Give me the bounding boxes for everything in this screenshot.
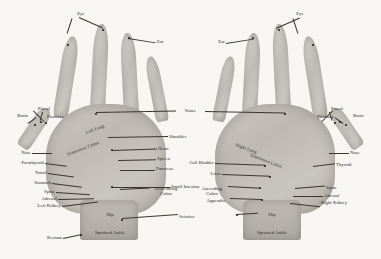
label-brain-right: Brain xyxy=(353,113,364,118)
point-brain-left xyxy=(34,124,36,126)
point-eye-left-a xyxy=(67,44,69,46)
leader-line-nose-left xyxy=(32,153,52,154)
label-eye-left: Eye xyxy=(77,11,84,16)
label-adrenal-right: Adrenal xyxy=(324,193,340,198)
label-sinus: Sinus xyxy=(185,108,196,113)
label-nose-right: Nose xyxy=(350,150,360,155)
leader-line-nose-right xyxy=(329,153,349,154)
left-hand-index-finger xyxy=(53,35,81,118)
label-pineal-right: Pineal xyxy=(331,106,343,111)
leader-line-rectum-left xyxy=(63,234,81,239)
label-thyroid-right: Thyroid xyxy=(336,162,352,167)
label-pituitary-right: Pituitary xyxy=(317,114,334,119)
point-liver xyxy=(269,176,271,178)
label-ascending-colon: Ascending Colon xyxy=(199,186,225,197)
point-eye-right-a xyxy=(278,29,280,31)
label-tonsil-left: Tonsil xyxy=(35,170,47,175)
label-spleen-left: Spleen xyxy=(157,156,170,161)
point-heart-left xyxy=(111,149,113,151)
label-sprained-ankle-right: Sprained Ankle xyxy=(257,230,287,235)
point-sinus-right xyxy=(284,113,286,115)
label-ear-right: Ear xyxy=(218,39,225,44)
label-spine-right: Spine xyxy=(326,185,337,190)
label-sciatica-left: Sciatica xyxy=(179,214,194,219)
leader-line-eye-left xyxy=(79,17,103,28)
label-stomach-left: Stomach xyxy=(34,180,51,185)
point-hip-right xyxy=(236,214,238,216)
label-pineal-left: Pineal xyxy=(38,106,50,111)
point-pituitary-left xyxy=(45,122,47,124)
label-pancreas-left: Pancreas xyxy=(156,166,173,171)
leader-line-adrenal-right xyxy=(293,196,323,197)
label-sprained-ankle-left: Sprained Ankle xyxy=(95,230,125,235)
point-pituitary-right xyxy=(334,122,336,124)
point-brain-right xyxy=(345,124,347,126)
label-appendix: Appendix xyxy=(207,198,226,203)
leader-line-eye-left2 xyxy=(67,18,73,34)
label-left-kidney: Left Kidney xyxy=(38,203,61,208)
label-shoulder-left: Shoulder xyxy=(169,134,186,139)
point-gall-bladder xyxy=(264,165,266,167)
point-small-intestine-left xyxy=(111,186,113,188)
label-brain-left: Brain xyxy=(17,113,28,118)
point-appendix xyxy=(261,199,263,201)
point-ascending-colon xyxy=(259,187,261,189)
point-eye-right-b xyxy=(312,44,314,46)
point-pineal-left xyxy=(40,121,42,123)
label-adrenal-left: Adrenal xyxy=(42,196,58,201)
leader-line-eye-right2 xyxy=(293,18,299,34)
label-nose-left: Nose xyxy=(21,150,31,155)
left-hand-pinky-finger xyxy=(144,55,169,122)
label-descending-colon: Descending Colon xyxy=(153,186,179,197)
label-spine-left: Spine xyxy=(44,189,55,194)
right-hand-index-finger xyxy=(301,35,329,118)
label-right-kidney: Right Kidney xyxy=(321,200,347,205)
label-hip-left: Hip xyxy=(106,212,113,217)
right-hand-pinky-finger xyxy=(212,55,237,122)
point-ear-right xyxy=(252,37,254,39)
leader-line-pancreas-left xyxy=(120,170,155,171)
label-eye-right: Eye xyxy=(296,11,303,16)
label-parathyroid-left: Parathyroid xyxy=(21,160,44,165)
label-heart-left: Heart xyxy=(158,146,169,151)
label-ear-left: Ear xyxy=(157,39,164,44)
label-pituitary-left: Pituitary xyxy=(47,114,64,119)
point-ear-left xyxy=(128,37,130,39)
label-rectum-left: Rectum xyxy=(47,235,62,240)
label-hip-right: Hip xyxy=(268,212,275,217)
label-gall-bladder: Gall Bladder xyxy=(189,160,214,165)
point-sciatica-left xyxy=(121,219,123,221)
point-rectum-left xyxy=(80,234,82,236)
label-liver: Liver xyxy=(211,171,221,176)
point-eye-left-b xyxy=(102,29,104,31)
point-pineal-right xyxy=(339,121,341,123)
reflexology-hand-chart: Eye Ear Pineal Brain Pituitary Nose Para… xyxy=(0,0,381,259)
point-sinus-left xyxy=(95,113,97,115)
